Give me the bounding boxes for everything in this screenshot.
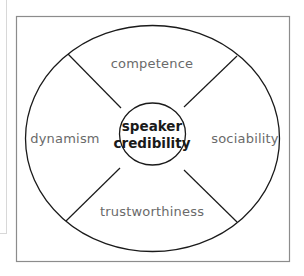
label-sociability: sociability bbox=[211, 131, 279, 146]
center-label: speaker credibility bbox=[114, 118, 191, 152]
label-competence: competence bbox=[111, 56, 194, 71]
center-label-line1: speaker bbox=[114, 118, 191, 135]
label-dynamism: dynamism bbox=[30, 131, 99, 146]
center-label-line2: credibility bbox=[114, 135, 191, 152]
label-trustworthiness: trustworthiness bbox=[100, 204, 204, 219]
speaker-credibility-diagram: competence sociability trustworthiness d… bbox=[0, 0, 304, 276]
